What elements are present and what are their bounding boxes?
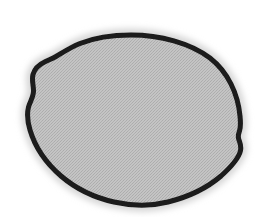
specimen-image-canvas — [0, 0, 271, 217]
lemon-silhouette-figure — [0, 0, 271, 217]
